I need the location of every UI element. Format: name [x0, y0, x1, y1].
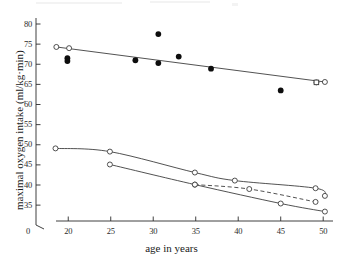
x-tick-label: 50 — [309, 226, 337, 236]
series-markers-group — [53, 31, 327, 214]
axes-group — [36, 18, 333, 229]
data-point-marker — [322, 209, 327, 214]
data-point-marker — [278, 201, 283, 206]
x-tick-label: 40 — [224, 226, 252, 236]
axis-break-label: 0 — [10, 226, 30, 236]
data-point-marker — [192, 182, 197, 187]
x-tick-label: 45 — [267, 226, 295, 236]
x-axis-title: age in years — [0, 242, 343, 254]
y-tick-label: 80 — [2, 19, 32, 29]
x-tick-label: 35 — [182, 226, 210, 236]
data-point-marker — [107, 162, 112, 167]
data-point-marker — [132, 57, 138, 63]
series-lines-group — [55, 47, 325, 212]
data-point-marker — [53, 146, 58, 151]
data-point-marker — [208, 66, 214, 72]
data-point-marker — [313, 199, 318, 204]
data-point-marker — [247, 187, 252, 192]
series-line — [55, 148, 325, 195]
x-tick-label: 20 — [54, 226, 82, 236]
data-point-marker — [155, 60, 161, 66]
y-axis-line — [36, 18, 44, 229]
figure-container: 35404550556065707580 20253035404550 0 ma… — [0, 0, 343, 267]
data-point-marker — [54, 44, 59, 49]
data-point-marker — [278, 88, 284, 94]
data-point-marker — [107, 149, 112, 154]
y-tick-label: 75 — [2, 39, 32, 49]
data-point-marker — [192, 170, 197, 175]
data-point-marker — [232, 178, 237, 183]
x-axis-ticks — [68, 217, 323, 222]
x-tick-label: 25 — [97, 226, 125, 236]
data-point-marker — [64, 58, 70, 64]
data-point-marker — [314, 80, 319, 85]
data-point-marker — [322, 79, 327, 84]
series-line — [56, 47, 325, 82]
data-point-marker — [155, 31, 161, 37]
data-point-marker — [322, 193, 327, 198]
y-axis-title: maximal oxygen intake (ml/kg·min) — [13, 50, 25, 210]
data-point-marker — [313, 186, 318, 191]
y-axis-ticks — [36, 24, 41, 205]
data-point-marker — [176, 54, 182, 60]
x-tick-label: 30 — [139, 226, 167, 236]
series-line — [110, 164, 325, 211]
series-line — [195, 185, 316, 202]
data-point-marker — [67, 46, 72, 51]
